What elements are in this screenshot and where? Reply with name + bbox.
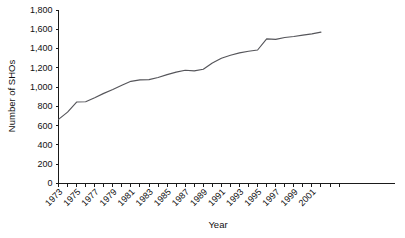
y-tick-label: 1,400 [30, 43, 53, 53]
y-tick-label: 400 [37, 140, 52, 150]
x-tick-label: 1989 [188, 187, 209, 208]
x-tick-label: 1975 [61, 187, 82, 208]
y-axis: 1,8001,6001,4001,2001,0008006004002000 N… [6, 5, 59, 189]
y-tick-label: 200 [37, 159, 52, 169]
y-tick-label: 1,200 [30, 63, 53, 73]
x-tick-label: 1983 [134, 187, 155, 208]
x-axis-title: Year [208, 219, 227, 230]
y-tick-label: 1,000 [30, 82, 53, 92]
x-tick-label: 1979 [97, 187, 118, 208]
y-tick-label: 0 [47, 178, 52, 188]
line-chart: 1,8001,6001,4001,2001,0008006004002000 N… [0, 0, 405, 238]
x-tick-labels: 1973197519771979198119831985198719891991… [43, 187, 318, 208]
y-tick-labels: 1,8001,6001,4001,2001,0008006004002000 [30, 5, 53, 189]
x-tick-label: 1981 [116, 187, 137, 208]
x-tick-label: 1991 [206, 187, 227, 208]
x-tick-label: 1973 [43, 187, 64, 208]
x-tick-label: 1997 [260, 187, 281, 208]
x-tick-label: 1999 [278, 187, 299, 208]
x-tick-label: 1993 [224, 187, 245, 208]
x-tick-label: 1995 [242, 187, 263, 208]
y-axis-title: Number of SHOs [6, 60, 17, 133]
chart-canvas: 1,8001,6001,4001,2001,0008006004002000 N… [0, 0, 405, 238]
series-line-number-of-shos [59, 32, 321, 119]
y-tick-label: 1,800 [30, 5, 53, 15]
y-tick-label: 1,600 [30, 24, 53, 34]
x-tick-label: 1987 [170, 187, 191, 208]
x-axis: 1973197519771979198119831985198719891991… [43, 184, 395, 231]
x-tick-label: 1977 [79, 187, 100, 208]
y-tick-label: 800 [37, 101, 52, 111]
x-tick-label: 1985 [152, 187, 173, 208]
y-tick-label: 600 [37, 121, 52, 131]
x-tick-label: 2001 [297, 187, 318, 208]
data-series-group [59, 32, 321, 119]
